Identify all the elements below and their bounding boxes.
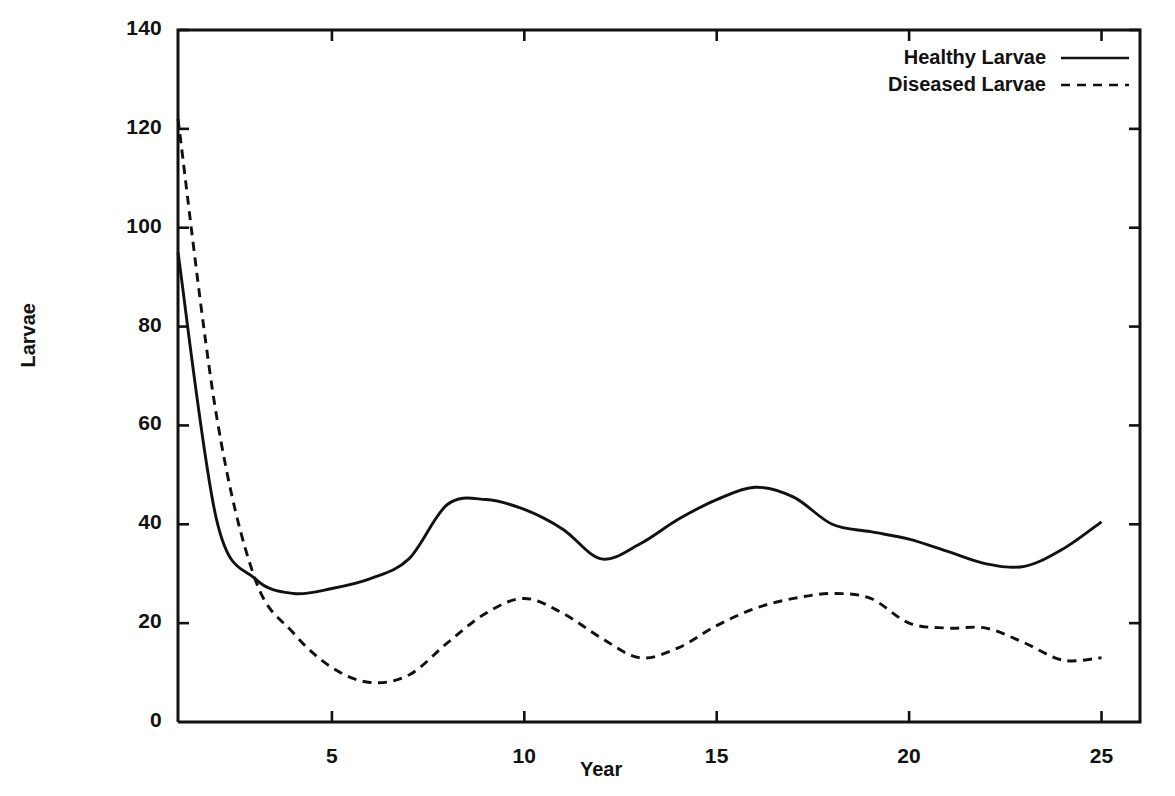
chart-legend: Healthy Larvae Diseased Larvae [880, 44, 1130, 98]
x-tick-label: 10 [484, 744, 564, 768]
axis-ticks [178, 30, 1140, 722]
x-axis-title: Year [580, 758, 622, 781]
y-tick-label: 60 [50, 411, 162, 435]
y-tick-label: 140 [50, 16, 162, 40]
y-tick-label: 120 [50, 115, 162, 139]
axes-box [178, 30, 1140, 722]
y-tick-label: 20 [50, 609, 162, 633]
series-line-healthy-larvae [178, 252, 1102, 593]
legend-label-healthy-larvae: Healthy Larvae [904, 46, 1046, 69]
y-tick-label: 0 [50, 708, 162, 732]
legend-swatch-dashed-line [1060, 78, 1130, 92]
x-tick-label: 20 [869, 744, 949, 768]
legend-item-diseased-larvae: Diseased Larvae [880, 71, 1130, 98]
y-tick-label: 40 [50, 510, 162, 534]
y-tick-label: 80 [50, 313, 162, 337]
plot-area [0, 0, 1175, 796]
y-tick-label: 100 [50, 214, 162, 238]
data-series [178, 119, 1102, 683]
legend-item-healthy-larvae: Healthy Larvae [880, 44, 1130, 71]
legend-label-diseased-larvae: Diseased Larvae [888, 73, 1046, 96]
legend-swatch-solid-line [1060, 51, 1130, 65]
series-line-diseased-larvae [178, 119, 1102, 683]
chart-figure: 020406080100120140 510152025 Larvae Year… [0, 0, 1175, 796]
x-tick-label: 15 [677, 744, 757, 768]
axes-frame [178, 30, 1140, 722]
x-tick-label: 5 [292, 744, 372, 768]
x-tick-label: 25 [1062, 744, 1142, 768]
y-axis-title: Larvae [17, 332, 40, 368]
